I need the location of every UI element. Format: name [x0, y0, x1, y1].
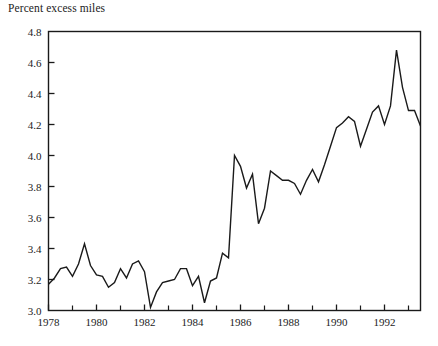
- svg-text:1984: 1984: [182, 316, 205, 328]
- svg-text:3.8: 3.8: [28, 181, 42, 193]
- svg-text:4.4: 4.4: [28, 88, 42, 100]
- svg-text:3.4: 3.4: [28, 243, 42, 255]
- svg-text:1982: 1982: [134, 316, 156, 328]
- svg-text:4.8: 4.8: [28, 26, 42, 38]
- chart-figure: Percent excess miles 3.03.23.43.63.84.04…: [0, 0, 438, 346]
- svg-text:4.2: 4.2: [28, 119, 42, 131]
- line-chart-plot: 3.03.23.43.63.84.04.24.44.64.8 197819801…: [0, 0, 438, 346]
- svg-text:4.0: 4.0: [28, 150, 42, 162]
- svg-text:3.6: 3.6: [28, 212, 42, 224]
- svg-text:1980: 1980: [86, 316, 109, 328]
- svg-text:1990: 1990: [326, 316, 349, 328]
- y-axis-ticks: [49, 63, 55, 280]
- svg-text:1988: 1988: [278, 316, 301, 328]
- y-axis-tick-labels: 3.03.23.43.63.84.04.24.44.64.8: [28, 26, 42, 317]
- svg-text:3.2: 3.2: [28, 274, 42, 286]
- svg-text:1992: 1992: [374, 316, 396, 328]
- x-axis-ticks: [49, 305, 409, 311]
- data-series-group: [49, 50, 421, 307]
- figure-footnote: [10, 338, 430, 346]
- x-axis-tick-labels: 19781980198219841986198819901992: [38, 316, 396, 328]
- svg-text:1986: 1986: [230, 316, 253, 328]
- plot-frame-border: [49, 32, 421, 311]
- svg-text:4.6: 4.6: [28, 57, 42, 69]
- svg-text:1978: 1978: [38, 316, 61, 328]
